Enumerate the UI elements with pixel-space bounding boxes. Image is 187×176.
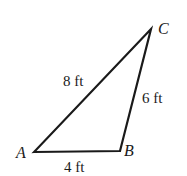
vertex-label-c: C — [158, 20, 169, 37]
vertex-label-a: A — [15, 144, 26, 161]
triangle-diagram: A B C 4 ft 6 ft 8 ft — [0, 0, 187, 176]
vertex-label-b: B — [124, 142, 134, 159]
side-label-ab: 4 ft — [64, 159, 85, 175]
side-label-ac: 8 ft — [63, 73, 84, 89]
triangle-abc — [34, 29, 151, 152]
side-label-bc: 6 ft — [142, 90, 163, 106]
